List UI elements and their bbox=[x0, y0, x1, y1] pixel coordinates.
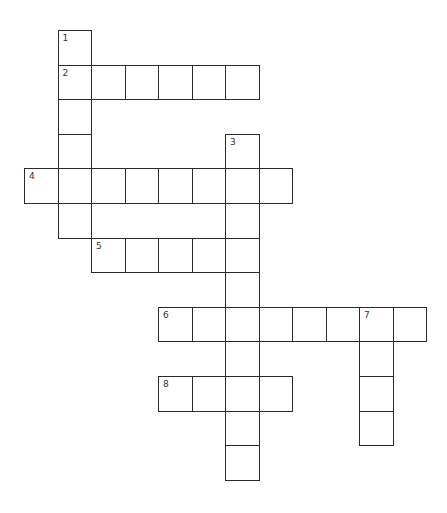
crossword-cell[interactable] bbox=[192, 376, 227, 412]
crossword-cell[interactable] bbox=[125, 168, 160, 204]
clue-number: 3 bbox=[230, 137, 236, 147]
crossword-cell[interactable] bbox=[192, 65, 227, 101]
crossword-cell[interactable] bbox=[259, 376, 294, 412]
crossword-cell[interactable] bbox=[259, 307, 294, 343]
crossword-cell[interactable] bbox=[158, 168, 193, 204]
crossword-cell[interactable] bbox=[225, 238, 260, 274]
crossword-cell[interactable] bbox=[225, 445, 260, 481]
crossword-cell[interactable] bbox=[192, 307, 227, 343]
crossword-cell[interactable] bbox=[225, 411, 260, 447]
crossword-cell[interactable] bbox=[58, 203, 93, 239]
crossword-cell[interactable] bbox=[393, 307, 428, 343]
crossword-cell[interactable] bbox=[225, 272, 260, 308]
clue-number: 4 bbox=[29, 171, 35, 181]
crossword-cell[interactable]: 7 bbox=[359, 307, 394, 343]
crossword-cell[interactable] bbox=[225, 65, 260, 101]
crossword-cell[interactable] bbox=[359, 376, 394, 412]
crossword-cell[interactable] bbox=[58, 99, 93, 135]
crossword-cell[interactable] bbox=[91, 168, 126, 204]
crossword-cell[interactable]: 1 bbox=[58, 30, 93, 66]
crossword-cell[interactable]: 3 bbox=[225, 134, 260, 170]
crossword-cell[interactable] bbox=[259, 168, 294, 204]
crossword-cell[interactable] bbox=[225, 341, 260, 377]
crossword-grid: 12345678 bbox=[0, 0, 447, 513]
crossword-cell[interactable] bbox=[359, 411, 394, 447]
crossword-cell[interactable] bbox=[58, 134, 93, 170]
crossword-cell[interactable] bbox=[292, 307, 327, 343]
clue-number: 7 bbox=[364, 310, 370, 320]
clue-number: 5 bbox=[96, 241, 102, 251]
clue-number: 8 bbox=[163, 379, 169, 389]
crossword-cell[interactable] bbox=[225, 168, 260, 204]
crossword-cell[interactable] bbox=[225, 376, 260, 412]
crossword-cell[interactable]: 2 bbox=[58, 65, 93, 101]
crossword-cell[interactable] bbox=[359, 341, 394, 377]
crossword-cell[interactable]: 5 bbox=[91, 238, 126, 274]
crossword-cell[interactable] bbox=[125, 238, 160, 274]
crossword-cell[interactable]: 8 bbox=[158, 376, 193, 412]
crossword-cell[interactable] bbox=[158, 65, 193, 101]
crossword-cell[interactable] bbox=[58, 168, 93, 204]
clue-number: 1 bbox=[63, 33, 69, 43]
clue-number: 6 bbox=[163, 310, 169, 320]
crossword-cell[interactable] bbox=[225, 203, 260, 239]
clue-number: 2 bbox=[63, 68, 69, 78]
crossword-cell[interactable] bbox=[326, 307, 361, 343]
crossword-cell[interactable] bbox=[125, 65, 160, 101]
crossword-cell[interactable] bbox=[192, 238, 227, 274]
crossword-cell[interactable] bbox=[225, 307, 260, 343]
crossword-cell[interactable] bbox=[158, 238, 193, 274]
crossword-cell[interactable] bbox=[91, 65, 126, 101]
crossword-cell[interactable]: 4 bbox=[24, 168, 59, 204]
crossword-cell[interactable]: 6 bbox=[158, 307, 193, 343]
crossword-cell[interactable] bbox=[192, 168, 227, 204]
